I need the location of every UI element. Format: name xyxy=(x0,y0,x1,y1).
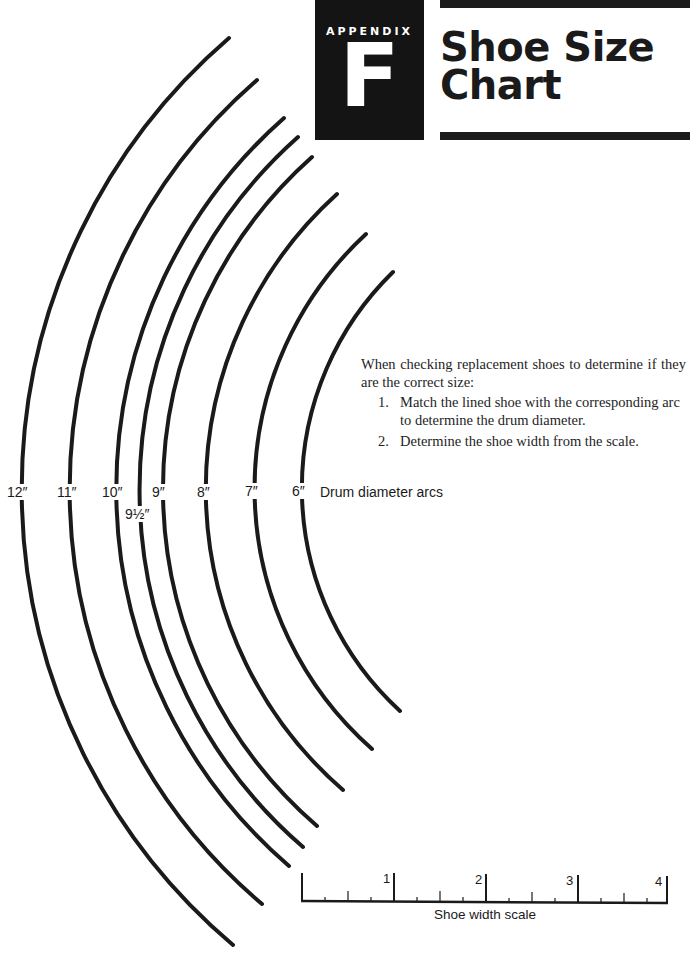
step-text: Determine the shoe width from the scale. xyxy=(400,433,639,449)
instruction-step: 2. Determine the shoe width from the sca… xyxy=(378,432,688,450)
arc-label-6: 6″ xyxy=(291,483,306,499)
appendix-badge: APPENDIX F xyxy=(315,0,424,140)
shoe-width-scale xyxy=(301,873,668,903)
title-rule-bottom xyxy=(440,132,690,140)
instructions-intro: When checking replacement shoes to deter… xyxy=(361,355,686,391)
page-title: Shoe Size Chart xyxy=(440,28,654,104)
scale-tick-label-2: 2 xyxy=(475,872,482,887)
scale-tick-label-3: 3 xyxy=(566,873,573,888)
arc-label-11: 11″ xyxy=(56,484,78,500)
step-number: 1. xyxy=(378,393,389,411)
title-rule-top xyxy=(440,0,690,8)
arc-label-9: 9″ xyxy=(151,484,166,500)
arc-label-7: 7″ xyxy=(244,483,259,499)
scale-tick-label-1: 1 xyxy=(383,871,390,886)
arcs-legend: Drum diameter arcs xyxy=(320,484,443,500)
title-line-1: Shoe Size xyxy=(440,28,654,66)
appendix-letter: F xyxy=(315,36,424,116)
arc-label-12: 12″ xyxy=(6,484,29,500)
arc-label-10: 10″ xyxy=(101,484,124,500)
arc-label-8: 8″ xyxy=(196,484,211,500)
scale-caption: Shoe width scale xyxy=(434,907,536,922)
step-number: 2. xyxy=(378,432,389,450)
instructions-steps: 1. Match the lined shoe with the corresp… xyxy=(378,393,688,453)
title-line-2: Chart xyxy=(440,66,654,104)
instruction-step: 1. Match the lined shoe with the corresp… xyxy=(378,393,688,429)
step-text: Match the lined shoe with the correspond… xyxy=(400,394,680,428)
scale-tick-label-4: 4 xyxy=(655,874,662,889)
arc-label-9-5: 9½″ xyxy=(124,506,150,522)
drum-diameter-arcs xyxy=(0,0,692,966)
